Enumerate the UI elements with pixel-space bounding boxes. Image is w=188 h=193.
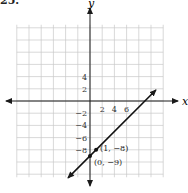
x-tick-label: 4 — [112, 105, 117, 114]
point-label: (0, −9) — [94, 158, 122, 167]
y-tick-label: 4 — [82, 73, 87, 82]
y-tick-label: −4 — [75, 121, 87, 130]
y-tick-label: −2 — [75, 109, 87, 118]
point-marker — [94, 148, 98, 152]
y-tick-label: 2 — [82, 85, 87, 94]
point-label: (1, −8) — [100, 144, 128, 153]
x-axis-label: x — [182, 95, 188, 108]
x-tick-label: 6 — [124, 105, 129, 114]
y-tick-label: −6 — [75, 134, 87, 143]
plotted-points: (1, −8)(0, −9) — [88, 144, 128, 167]
x-tick-label: 2 — [100, 105, 105, 114]
y-tick-label: −8 — [75, 146, 87, 155]
y-axis-label: y — [87, 0, 95, 10]
point-marker — [88, 154, 92, 158]
coordinate-plane: xy 24642−2−4−6−8 (1, −8)(0, −9) — [0, 0, 188, 193]
